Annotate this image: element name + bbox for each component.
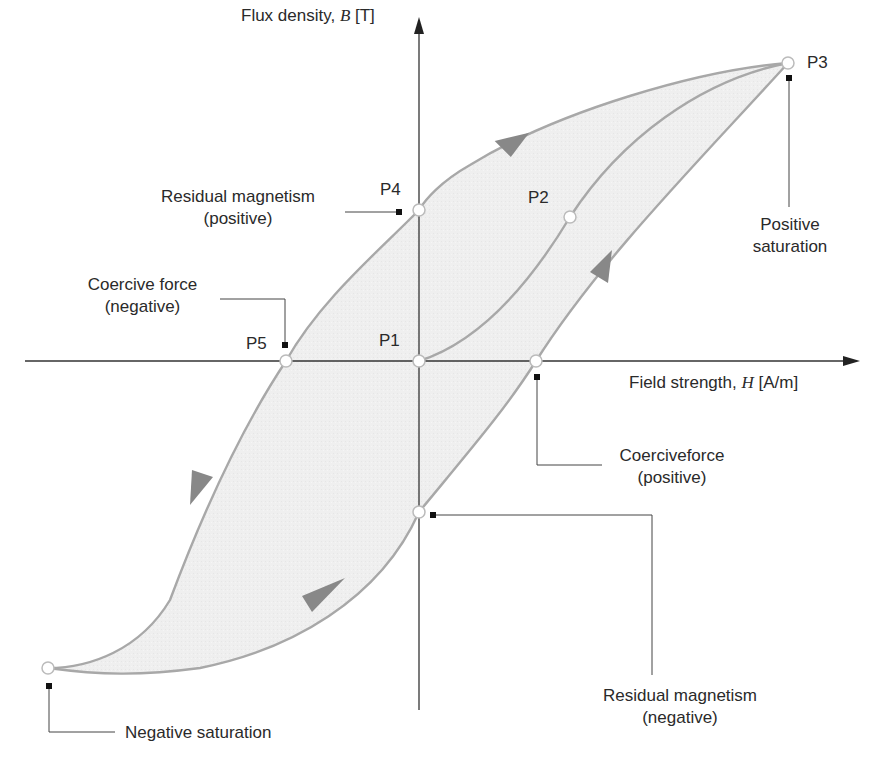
annotation-coercive-positive-line1: Coerciveforce [607, 445, 737, 467]
leader-residual-negative [435, 515, 652, 675]
label-p5: P5 [246, 334, 267, 354]
point-residual-negative [413, 506, 425, 518]
point-p3 [782, 57, 794, 69]
label-p1: P1 [379, 331, 400, 351]
point-coercive-positive [530, 355, 542, 367]
point-p5 [280, 355, 292, 367]
arrow-descending-left-icon [190, 470, 213, 505]
annotation-coercive-positive-line2: (positive) [607, 467, 737, 489]
x-axis-label-prefix: Field strength, [629, 373, 741, 392]
annotation-positive-saturation-line1: Positive [738, 214, 842, 236]
label-p3: P3 [807, 53, 828, 73]
annotation-negative-saturation: Negative saturation [125, 722, 271, 744]
marker-positive-saturation-icon [786, 75, 792, 81]
marker-coercive-positive-icon [534, 374, 540, 380]
y-axis-symbol: B [340, 6, 350, 25]
point-p2 [564, 211, 576, 223]
annotation-coercive-negative: Coercive force (negative) [70, 274, 215, 318]
y-axis-label: Flux density, B [T] [241, 5, 375, 27]
annotation-coercive-negative-line1: Coercive force [70, 274, 215, 296]
annotation-residual-negative-line2: (negative) [585, 707, 775, 729]
y-axis-label-prefix: Flux density, [241, 6, 340, 25]
x-axis-symbol: H [741, 373, 753, 392]
label-p4: P4 [380, 180, 401, 200]
leader-coercive-positive [537, 378, 602, 465]
x-axis-label: Field strength, H [A/m] [629, 372, 798, 394]
point-p1 [413, 355, 425, 367]
annotation-residual-positive-line1: Residual magnetism [143, 186, 333, 208]
x-axis-unit: [A/m] [754, 373, 798, 392]
annotation-positive-saturation-line2: saturation [738, 236, 842, 258]
annotation-residual-positive: Residual magnetism (positive) [143, 186, 333, 230]
y-axis-unit: [T] [350, 6, 375, 25]
annotation-positive-saturation: Positive saturation [738, 214, 842, 258]
point-negative-saturation [42, 662, 54, 674]
x-axis-arrowhead-icon [843, 356, 860, 366]
annotation-residual-positive-line2: (positive) [143, 208, 333, 230]
marker-residual-positive-icon [396, 209, 402, 215]
annotation-residual-negative-line1: Residual magnetism [585, 685, 775, 707]
marker-negative-saturation-icon [46, 683, 52, 689]
point-p4 [413, 204, 425, 216]
y-axis-arrowhead-icon [414, 17, 424, 34]
marker-residual-negative-icon [430, 512, 436, 518]
leader-negative-saturation [49, 686, 115, 732]
annotation-coercive-positive: Coerciveforce (positive) [607, 445, 737, 489]
marker-coercive-negative-icon [282, 342, 288, 348]
label-p2: P2 [528, 188, 549, 208]
annotation-residual-negative: Residual magnetism (negative) [585, 685, 775, 729]
hysteresis-loop-fill [48, 63, 788, 674]
annotation-coercive-negative-line2: (negative) [70, 296, 215, 318]
